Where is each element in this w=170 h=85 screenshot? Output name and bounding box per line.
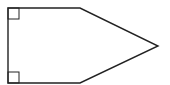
pentagon-diagram	[0, 0, 170, 85]
pentagon-shape	[8, 8, 158, 83]
